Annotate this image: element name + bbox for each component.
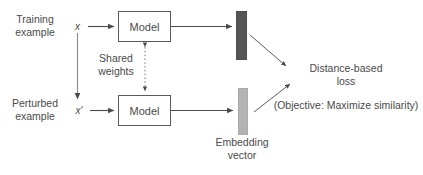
perturbed-example-label: Perturbed example [2, 97, 68, 123]
model-box-bottom[interactable]: Model [118, 95, 171, 126]
diagram-canvas: Model Model Training example Perturbed e… [0, 0, 423, 175]
embedding-vector-bottom [238, 88, 248, 135]
model-box-top[interactable]: Model [118, 11, 171, 42]
arrow-embedding-top-to-loss [250, 35, 286, 66]
objective-label: (Objective: Maximize similarity) [270, 99, 422, 112]
input-x-label: x [71, 21, 84, 33]
input-x-prime-label: x′ [71, 105, 87, 117]
shared-weights-label: Shared weights [91, 52, 141, 78]
model-box-top-label: Model [130, 21, 160, 33]
embedding-vector-label: Embedding vector [206, 136, 278, 162]
embedding-vector-top [236, 11, 247, 60]
model-box-bottom-label: Model [130, 105, 160, 117]
distance-based-loss-label: Distance-based loss [297, 62, 395, 88]
training-example-label: Training example [4, 13, 66, 39]
